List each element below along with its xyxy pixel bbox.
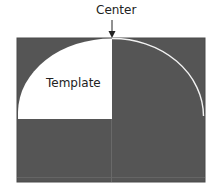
template-diagram [0,0,220,195]
template-label: Template [46,76,101,90]
center-arrow-icon [109,31,116,38]
